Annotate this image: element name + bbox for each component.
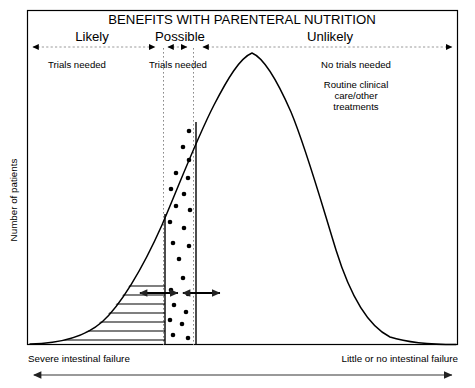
y-axis-label: Number of patients [8, 159, 19, 242]
zone-note-unlikely-2: Routine clinical [324, 79, 389, 90]
zone-label-unlikely: Unlikely [307, 29, 354, 44]
figure-root: BENEFITS WITH PARENTERAL NUTRITION Likel… [0, 0, 475, 388]
page-title: BENEFITS WITH PARENTERAL NUTRITION [108, 12, 375, 27]
x-axis-label-left: Severe intestinal failure [28, 353, 130, 364]
zone-note-unlikely-4: treatments [333, 101, 379, 112]
x-axis-label-right: Little or no intestinal failure [341, 353, 458, 364]
zone-note-unlikely-1: No trials needed [321, 59, 391, 70]
zone-label-possible: Possible [155, 29, 205, 44]
zone-note-possible: Trials needed [149, 59, 207, 70]
zone-note-unlikely-3: care/other [334, 90, 378, 101]
zone-note-likely: Trials needed [48, 59, 106, 70]
zone-label-likely: Likely [75, 29, 109, 44]
parenteral-nutrition-figure: BENEFITS WITH PARENTERAL NUTRITION Likel… [0, 0, 475, 388]
